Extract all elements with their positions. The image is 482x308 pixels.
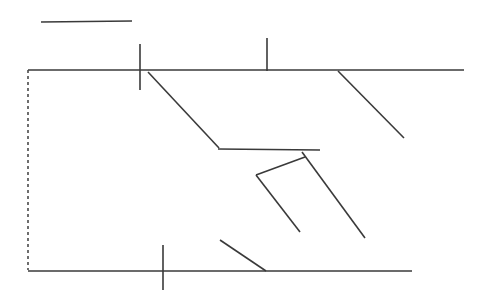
figure-canvas: [0, 0, 482, 308]
canvas-background: [0, 0, 482, 308]
line-drawing-svg: [0, 0, 482, 308]
middle-horizontal-line: [218, 149, 320, 150]
top-left-short-line: [41, 21, 132, 22]
